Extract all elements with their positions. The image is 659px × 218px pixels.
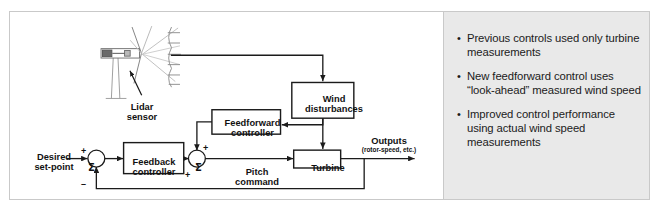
bullet-text: New feedforward control uses “look-ahead… <box>467 70 641 96</box>
bullet-list: • Previous controls used only turbine me… <box>456 32 642 160</box>
sum-junction-1-minus-sign: – <box>81 180 86 189</box>
bullet-text: Improved control performance using actua… <box>467 108 615 147</box>
feedback-controller-block-label: Feedback controller <box>122 157 186 178</box>
turbine-block-label: Turbine <box>303 163 353 173</box>
pitch-command-label: Pitch command <box>222 167 292 188</box>
desired-setpoint-label: Desired set-point <box>18 152 90 173</box>
feedforward-controller-block-label: Feedforward controller <box>216 118 289 139</box>
turbine-illustration <box>101 26 181 98</box>
summary-bullets-panel: • Previous controls used only turbine me… <box>443 12 649 199</box>
sum-junction-2-plus-sign-top: + <box>203 144 208 153</box>
bullet-item: • New feedforward control uses “look-ahe… <box>456 70 642 97</box>
bullet-dot-icon: • <box>457 70 461 84</box>
bullet-text: Previous controls used only turbine meas… <box>467 32 639 58</box>
slide-canvas: Σ Σ + – + + Feedback controller Feedforw… <box>0 0 659 218</box>
outputs-label: Outputs <box>353 136 425 146</box>
lidar-sensor-label: Lidar sensor <box>116 102 168 123</box>
bullet-dot-icon: • <box>457 32 461 46</box>
bullet-item: • Improved control performance using act… <box>456 108 642 149</box>
sum-junction-2-sigma: Σ <box>195 163 202 173</box>
control-diagram-panel: Σ Σ + – + + Feedback controller Feedforw… <box>10 12 443 199</box>
wind-disturbances-block-label: Wind disturbances <box>301 94 367 115</box>
bullet-dot-icon: • <box>457 108 461 122</box>
bullet-item: • Previous controls used only turbine me… <box>456 32 642 59</box>
outputs-sublabel: (rotor-speed, etc.) <box>339 146 439 153</box>
